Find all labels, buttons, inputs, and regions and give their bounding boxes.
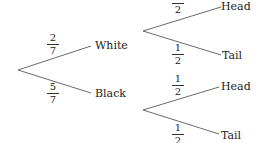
prob-lower-head-den: 2 [172, 86, 184, 97]
prob-lower-tail-den: 2 [172, 135, 184, 143]
prob-lower-head: 1 2 [172, 74, 184, 97]
outcome-lower-tail: Tail [221, 130, 241, 141]
prob-lower-head-num: 1 [172, 74, 184, 86]
outcome-black: Black [95, 88, 126, 99]
outcome-upper-tail: Tail [222, 50, 242, 61]
prob-white: 2 7 [47, 33, 59, 56]
prob-upper-tail: 1 2 [172, 43, 184, 66]
prob-upper-tail-den: 2 [172, 55, 184, 66]
prob-black-den: 7 [47, 94, 59, 105]
outcome-white: White [95, 40, 128, 51]
prob-white-num: 2 [47, 33, 59, 45]
prob-white-den: 7 [47, 45, 59, 56]
outcome-lower-head: Head [221, 81, 251, 92]
prob-black: 5 7 [47, 82, 59, 105]
prob-upper-tail-num: 1 [172, 43, 184, 55]
prob-lower-tail: 1 2 [172, 123, 184, 143]
prob-upper-head-den: 2 [172, 4, 184, 15]
outcome-upper-head: Head [221, 1, 251, 12]
prob-black-num: 5 [47, 82, 59, 94]
prob-upper-head: 1 2 [172, 0, 184, 15]
prob-lower-tail-num: 1 [172, 123, 184, 135]
tree-branches [0, 0, 257, 143]
